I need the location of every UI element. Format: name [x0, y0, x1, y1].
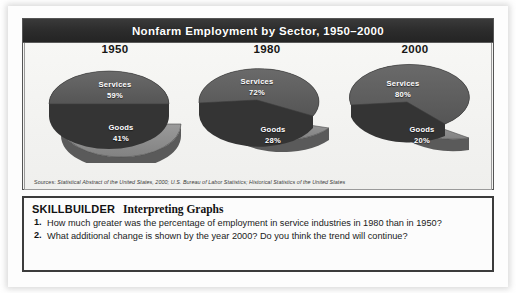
- pie-graphic-2000: [337, 58, 493, 163]
- pie-chart-1980: 1980: [189, 43, 345, 165]
- pie-graphic-1980: [189, 58, 345, 163]
- pie-chart-1950: 1950: [37, 43, 193, 165]
- services-slice-1950: [49, 71, 169, 149]
- pie-chart-row: 1950: [25, 43, 491, 165]
- skillbuilder-heading: SKILLBUILDER Interpreting Graphs: [32, 203, 484, 215]
- chart-card: Nonfarm Employment by Sector, 1950–2000 …: [22, 18, 494, 190]
- skillbuilder-question-2: 2. What additional change is shown by th…: [32, 230, 484, 242]
- chart-title-bar: Nonfarm Employment by Sector, 1950–2000: [23, 19, 493, 43]
- pie-chart-2000: 2000: [337, 43, 493, 165]
- pie-graphic-1950: [37, 58, 193, 163]
- sources-note: Sources: Statistical Abstract of the Uni…: [34, 179, 482, 185]
- chart-title: Nonfarm Employment by Sector, 1950–2000: [132, 25, 384, 37]
- skillbuilder-subtitle: Interpreting Graphs: [123, 203, 223, 215]
- skillbuilder-title: SKILLBUILDER: [32, 203, 115, 215]
- services-slice-1980: [199, 69, 319, 147]
- chart-body: 1950: [24, 43, 492, 190]
- services-slice-2000: [349, 64, 469, 142]
- question-text: How much greater was the percentage of e…: [47, 217, 484, 229]
- pie-year-label: 2000: [337, 43, 493, 55]
- skillbuilder-card: SKILLBUILDER Interpreting Graphs 1. How …: [22, 196, 494, 272]
- page-root: Nonfarm Employment by Sector, 1950–2000 …: [0, 0, 516, 293]
- sources-label: Sources:: [34, 179, 57, 185]
- question-text: What additional change is shown by the y…: [47, 230, 484, 242]
- pie-year-label: 1980: [189, 43, 345, 55]
- question-number: 2.: [32, 230, 47, 240]
- skillbuilder-question-1: 1. How much greater was the percentage o…: [32, 217, 484, 229]
- question-number: 1.: [32, 217, 47, 227]
- sources-citation: Statistical Abstract of the United State…: [57, 179, 345, 185]
- pie-year-label: 1950: [37, 43, 193, 55]
